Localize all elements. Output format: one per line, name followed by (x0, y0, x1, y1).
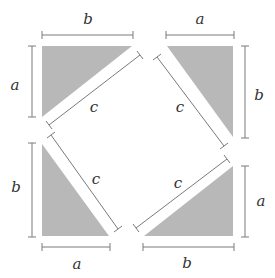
dimension-br-bottom (143, 243, 234, 251)
dimension-bl-left (28, 143, 36, 237)
dimension-tl-top (42, 31, 133, 39)
dimension-tr-right (241, 46, 249, 138)
label-tr-top: a (196, 10, 205, 28)
label-bl-hyp: c (92, 170, 101, 188)
label-tl-left: a (11, 76, 20, 94)
label-tr-right: b (254, 86, 264, 104)
label-br-hyp: c (174, 174, 183, 192)
triangle-bottom-right (144, 166, 233, 236)
triangle-top-left (42, 46, 132, 117)
triangle-top-right (167, 46, 233, 137)
label-tr-hyp: c (176, 98, 185, 116)
label-tl-top: b (83, 10, 93, 28)
label-bl-bottom: a (73, 255, 82, 273)
label-tl-hyp: c (90, 98, 99, 116)
label-bl-left: b (11, 178, 21, 196)
dimension-tl-left (28, 46, 36, 117)
triangle-bottom-left (42, 144, 109, 236)
dimension-br-right (241, 166, 249, 237)
label-br-bottom: b (182, 254, 192, 272)
label-br-right: a (257, 192, 266, 210)
dimension-tr-top (166, 31, 234, 39)
pythagorean-diagram: b a c a b c b a c a b c (0, 0, 275, 278)
dimension-bl-bottom (42, 243, 110, 251)
